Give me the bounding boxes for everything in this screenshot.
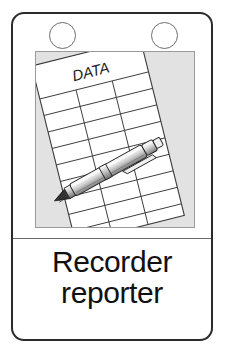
card-body: DATA	[11, 12, 213, 341]
card-divider	[13, 238, 211, 239]
punch-hole-left-icon	[49, 22, 76, 49]
data-sheet-with-pen-illustration: DATA	[36, 52, 194, 227]
card-caption: Recorder reporter	[13, 247, 211, 308]
punch-hole-right-icon	[151, 22, 178, 49]
recorder-reporter-card: DATA	[0, 0, 225, 355]
caption-line-2: reporter	[13, 278, 211, 309]
illustration-panel: DATA	[35, 51, 195, 228]
caption-line-1: Recorder	[13, 247, 211, 278]
